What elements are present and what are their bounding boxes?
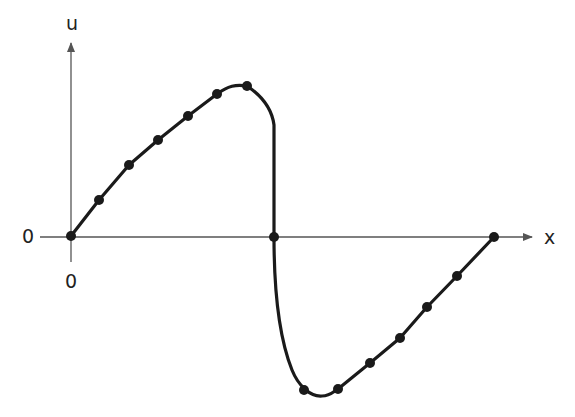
data-point [94,195,104,205]
data-point [365,358,375,368]
u-axis-label: u [66,14,78,33]
data-point [452,271,462,281]
data-point [153,135,163,145]
diagram-canvas [0,0,575,417]
x-axis-label: x [544,228,555,247]
data-point [66,231,76,241]
data-point [183,111,193,121]
data-point [395,333,405,343]
data-point [333,384,343,394]
x-origin-label: 0 [65,272,77,291]
data-point [269,232,279,242]
data-point [422,302,432,312]
data-point [299,385,309,395]
data-point [242,81,252,91]
data-point [212,89,222,99]
data-points [66,81,499,395]
solution-curve [71,85,494,396]
data-point [124,160,134,170]
y-origin-label: 0 [22,227,34,246]
data-point [489,232,499,242]
